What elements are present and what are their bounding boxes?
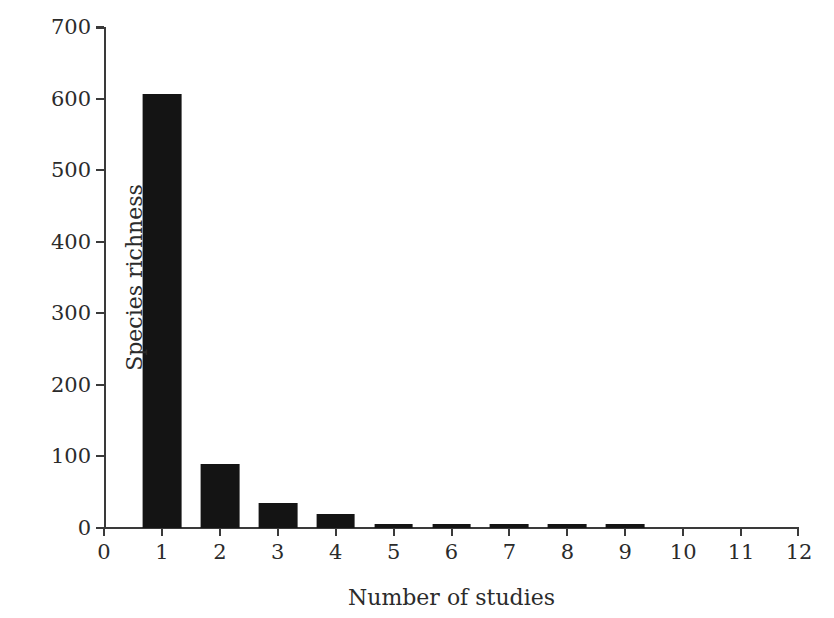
y-tick-300 xyxy=(96,312,104,314)
bar xyxy=(200,464,239,528)
chart-figure: 0100200300400500600700 0123456789101112 … xyxy=(0,0,834,618)
bar xyxy=(258,503,297,528)
x-tick-label-8: 8 xyxy=(561,542,574,563)
x-tick-0 xyxy=(103,528,105,536)
x-tick-label-10: 10 xyxy=(670,542,697,563)
y-tick-100 xyxy=(96,455,104,457)
x-tick-4 xyxy=(335,528,337,536)
x-axis-end-cap xyxy=(797,528,799,536)
x-tick-label-7: 7 xyxy=(503,542,516,563)
y-tick-500 xyxy=(96,169,104,171)
x-tick-label-1: 1 xyxy=(155,542,168,563)
y-axis-title-text: Species richness xyxy=(122,184,147,371)
x-tick-3 xyxy=(277,528,279,536)
y-tick-600 xyxy=(96,98,104,100)
bar xyxy=(316,514,355,528)
x-tick-8 xyxy=(566,528,568,536)
x-tick-label-9: 9 xyxy=(619,542,632,563)
y-tick-label-500: 500 xyxy=(51,160,91,181)
y-tick-400 xyxy=(96,241,104,243)
y-tick-label-300: 300 xyxy=(51,303,91,324)
bar xyxy=(432,524,471,528)
bar xyxy=(606,524,645,528)
x-tick-11 xyxy=(740,528,742,536)
x-tick-label-11: 11 xyxy=(728,542,755,563)
x-tick-2 xyxy=(219,528,221,536)
bar xyxy=(548,524,587,528)
x-tick-9 xyxy=(624,528,626,536)
x-tick-5 xyxy=(393,528,395,536)
y-tick-label-0: 0 xyxy=(78,518,91,539)
y-tick-label-700: 700 xyxy=(51,17,91,38)
bar xyxy=(143,94,182,528)
y-axis-line xyxy=(104,27,106,529)
x-tick-label-2: 2 xyxy=(213,542,226,563)
x-tick-label-3: 3 xyxy=(271,542,284,563)
x-tick-label-0: 0 xyxy=(97,542,110,563)
x-tick-label-4: 4 xyxy=(329,542,342,563)
plot-area: 0100200300400500600700 0123456789101112 … xyxy=(104,27,799,528)
x-tick-label-5: 5 xyxy=(387,542,400,563)
x-axis-title: Number of studies xyxy=(104,587,799,609)
x-tick-label-6: 6 xyxy=(445,542,458,563)
y-tick-label-400: 400 xyxy=(51,231,91,252)
x-tick-6 xyxy=(451,528,453,536)
y-axis-title: Species richness xyxy=(122,27,146,528)
y-tick-label-600: 600 xyxy=(51,88,91,109)
x-tick-7 xyxy=(508,528,510,536)
x-tick-label-12: 12 xyxy=(786,542,813,563)
bar xyxy=(374,524,413,528)
y-tick-200 xyxy=(96,384,104,386)
x-tick-10 xyxy=(682,528,684,536)
y-tick-label-200: 200 xyxy=(51,374,91,395)
x-tick-1 xyxy=(161,528,163,536)
y-tick-label-100: 100 xyxy=(51,446,91,467)
bar xyxy=(490,524,529,528)
y-tick-700 xyxy=(96,26,104,28)
